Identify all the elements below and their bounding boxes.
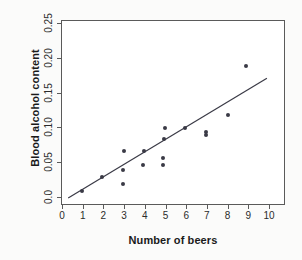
y-tick-label: 0.25 bbox=[43, 8, 55, 38]
x-tick bbox=[207, 205, 208, 209]
y-tick-label: 0.10 bbox=[43, 112, 55, 142]
x-tick bbox=[248, 205, 249, 209]
x-tick bbox=[269, 205, 270, 209]
x-tick bbox=[145, 205, 146, 209]
chart-figure: 012345678910 0.00.050.100.150.200.25 Num… bbox=[0, 0, 302, 260]
y-tick-label: 0.0 bbox=[43, 182, 55, 212]
y-tick bbox=[57, 23, 61, 24]
y-tick-label: 0.05 bbox=[43, 147, 55, 177]
y-tick-label: 0.15 bbox=[43, 78, 55, 108]
x-tick bbox=[228, 205, 229, 209]
x-tick bbox=[166, 205, 167, 209]
y-tick bbox=[57, 58, 61, 59]
plot-frame bbox=[61, 20, 285, 205]
regression-line bbox=[62, 21, 286, 206]
y-tick bbox=[57, 162, 61, 163]
y-tick-label: 0.20 bbox=[43, 43, 55, 73]
y-tick bbox=[57, 197, 61, 198]
x-tick-label: 10 bbox=[257, 210, 281, 222]
x-axis-title: Number of beers bbox=[61, 234, 285, 246]
y-tick bbox=[57, 127, 61, 128]
y-axis-title: Blood alcohol content bbox=[29, 16, 41, 201]
x-tick bbox=[124, 205, 125, 209]
x-tick bbox=[83, 205, 84, 209]
y-tick bbox=[57, 93, 61, 94]
x-tick bbox=[186, 205, 187, 209]
x-tick bbox=[103, 205, 104, 209]
x-tick bbox=[62, 205, 63, 209]
